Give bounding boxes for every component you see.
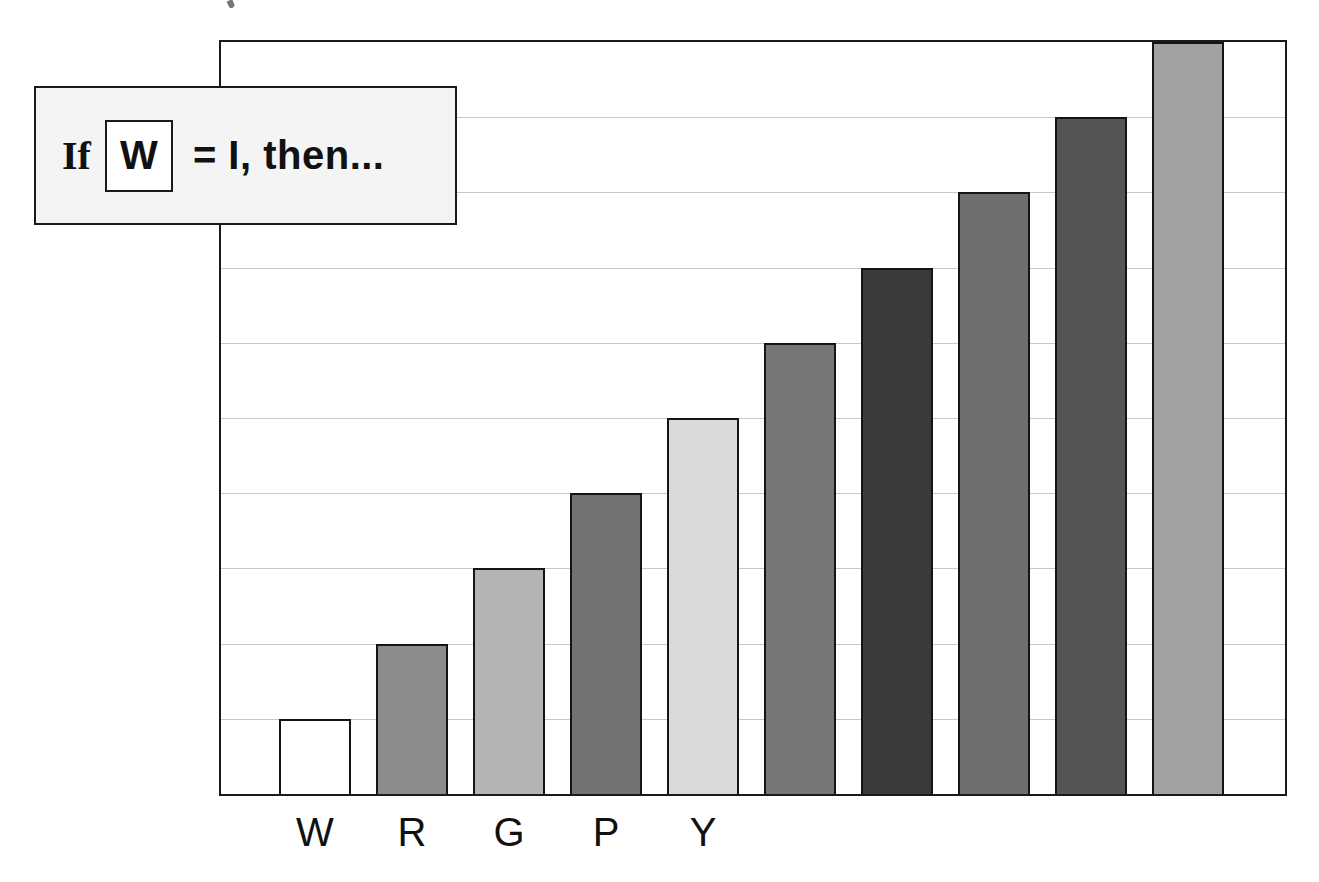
bar-unlabeled-6 <box>764 343 836 794</box>
bar-p <box>570 493 642 794</box>
bar-w <box>279 719 351 794</box>
x-axis-label: P <box>570 808 642 856</box>
bar-g <box>473 568 545 794</box>
chart-title-callout: If W = I, then... <box>34 86 457 225</box>
bar-unlabeled-9 <box>1055 117 1127 794</box>
callout-prefix: If <box>62 132 91 179</box>
x-axis-label: Y <box>667 808 739 856</box>
decorative-speck <box>227 0 236 9</box>
x-axis-label: G <box>473 808 545 856</box>
bar-y <box>667 418 739 794</box>
callout-suffix: = I, then... <box>193 133 385 178</box>
bar-unlabeled-10 <box>1152 42 1224 794</box>
bar-r <box>376 644 448 794</box>
x-axis-label: R <box>376 808 448 856</box>
x-axis-label: W <box>279 808 351 856</box>
bar-unlabeled-7 <box>861 268 933 794</box>
bar-unlabeled-8 <box>958 192 1030 794</box>
callout-boxed-letter: W <box>105 120 173 192</box>
